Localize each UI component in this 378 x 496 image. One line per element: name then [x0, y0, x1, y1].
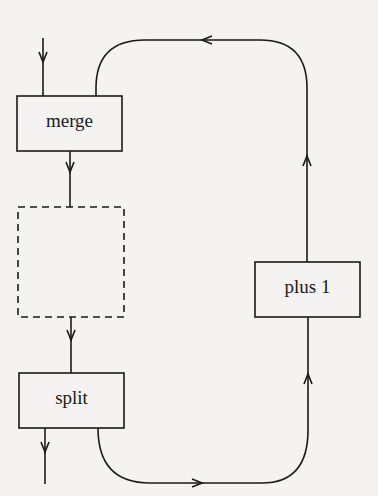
merge-label: merge [17, 110, 122, 132]
placeholder-box [18, 207, 124, 317]
split-label: split [19, 387, 124, 409]
plus1-to-merge-edge [96, 40, 307, 262]
plus1-label: plus 1 [255, 276, 360, 298]
dataflow-diagram [0, 0, 378, 496]
split-to-plus1-edge [98, 317, 308, 483]
